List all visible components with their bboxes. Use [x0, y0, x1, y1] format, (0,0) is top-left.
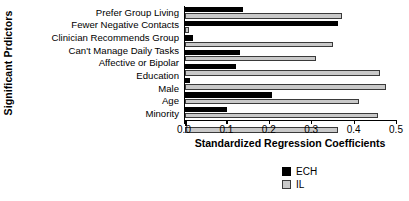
bar-row	[185, 20, 397, 34]
bar-row	[185, 92, 397, 106]
x-axis-tick-label: 0.1	[219, 124, 233, 135]
bar-il	[185, 27, 189, 32]
legend-swatch-icon	[282, 180, 291, 189]
y-axis-tick-label: Can't Manage Daily Tasks	[17, 44, 182, 57]
y-axis-tick-label: Affective or Bipolar	[17, 57, 182, 70]
bar-il	[185, 113, 378, 118]
bar-ech	[185, 64, 236, 69]
bar-row	[185, 106, 397, 120]
legend-item: IL	[282, 178, 317, 191]
bar-row	[185, 77, 397, 91]
legend-label: IL	[296, 179, 304, 190]
bar-row	[185, 35, 397, 49]
bar-ech	[185, 78, 190, 83]
bar-il	[185, 13, 342, 18]
x-axis-tick-label: 0.5	[389, 124, 403, 135]
legend-swatch-icon	[282, 167, 291, 176]
bar-il	[185, 42, 333, 47]
legend-item: ECH	[282, 165, 317, 178]
plot-area	[184, 6, 397, 120]
x-axis-tick-labels: 0.00.10.20.30.40.5	[184, 124, 396, 137]
x-axis-title: Standardized Regression Coefficients	[184, 137, 396, 149]
bar-ech	[185, 50, 240, 55]
bar-ech	[185, 35, 193, 40]
y-axis-tick-label: Minority	[17, 107, 182, 120]
bar-ech	[185, 7, 243, 12]
y-axis-tick-label: Clinician Recommends Group	[17, 31, 182, 44]
bar-ech	[185, 107, 227, 112]
y-axis-tick-label: Fewer Negative Contacts	[17, 19, 182, 32]
y-axis-tick-label: Male	[17, 82, 182, 95]
legend-label: ECH	[296, 166, 317, 177]
y-axis-tick-labels: Prefer Group LivingFewer Negative Contac…	[17, 6, 182, 120]
x-axis-tick-label: 0.4	[347, 124, 361, 135]
x-axis-line	[184, 120, 396, 121]
chart-legend: ECHIL	[282, 165, 317, 191]
bar-il	[185, 99, 359, 104]
bar-il	[185, 70, 380, 75]
y-axis-tick-label: Education	[17, 69, 182, 82]
x-axis-tick-label: 0.3	[304, 124, 318, 135]
bar-ech	[185, 92, 272, 97]
y-axis-tick-label: Age	[17, 95, 182, 108]
bar-ech	[185, 21, 338, 26]
bar-il	[185, 84, 386, 89]
y-axis-title: Significant Prdictors	[3, 11, 15, 116]
bar-row	[185, 49, 397, 63]
bar-il	[185, 56, 316, 61]
bar-chart-figure: Significant Prdictors Prefer Group Livin…	[0, 0, 409, 201]
x-axis-tick-label: 0.0	[177, 124, 191, 135]
bar-row	[185, 63, 397, 77]
bar-row	[185, 6, 397, 20]
x-axis-tick-label: 0.2	[262, 124, 276, 135]
y-axis-tick-label: Prefer Group Living	[17, 6, 182, 19]
y-axis-title-container: Significant Prdictors	[0, 0, 17, 126]
